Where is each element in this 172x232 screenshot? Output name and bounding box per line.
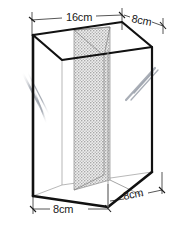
edge-base-back-to-left <box>33 185 62 196</box>
dim-line-8cm-tr-left <box>124 15 130 17</box>
dim-line-8cm-br-right <box>148 190 162 193</box>
glass-glare-right <box>126 68 158 100</box>
glass-glare-left <box>22 71 50 124</box>
dim-line-16cm-right <box>96 15 122 16</box>
glare-right-stroke-3 <box>134 72 153 93</box>
dim-label-8cm-top-right: 8cm <box>131 12 153 28</box>
glare-left-stroke-2 <box>27 71 50 116</box>
geometry-figure: 16cm 8cm 8cm 8cm <box>0 0 172 232</box>
dim-line-16cm-left <box>31 18 62 20</box>
dim-label-8cm-bottom-right: 8cm <box>122 186 144 202</box>
glare-right-stroke-1 <box>126 68 155 100</box>
glare-right-stroke-2 <box>131 70 158 100</box>
diagram-canvas: 16cm 8cm 8cm 8cm <box>0 0 172 232</box>
dim-label-8cm-bottom-left: 8cm <box>53 203 73 215</box>
dim-label-16cm: 16cm <box>66 11 92 23</box>
